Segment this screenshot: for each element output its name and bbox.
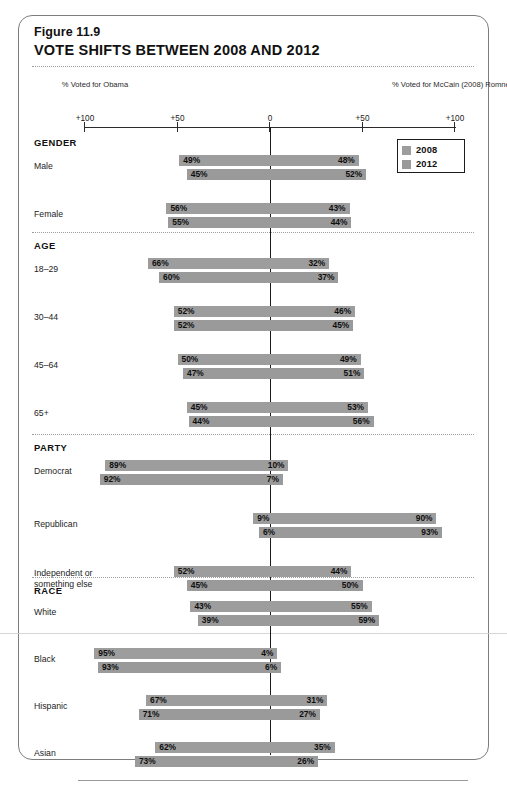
bar-value-left: 6% [263,527,275,538]
bar-value-left: 66% [152,258,169,269]
bar-2008 [155,742,334,753]
row-label: Republican [34,519,77,530]
row-label: Female [34,209,63,220]
row-label: Asian [34,748,56,759]
bar-value-right: 10% [268,460,285,471]
legend-swatch-icon [402,160,411,169]
bar-value-left: 55% [172,217,189,228]
bar-2008 [179,155,358,166]
bar-value-left: 73% [139,756,156,767]
bar-2012 [187,580,363,591]
bar-value-left: 95% [98,648,115,659]
row-label: 65+ [34,408,49,419]
bar-2008 [178,354,361,365]
row-label: Male [34,161,53,172]
legend-item: 2012 [402,157,460,171]
bar-value-left: 9% [257,513,269,524]
bar-value-left: 71% [143,709,160,720]
bar-value-right: 6% [265,662,277,673]
bar-2012 [135,756,318,767]
bar-value-right: 37% [318,272,335,283]
bar-2012 [189,416,374,427]
bar-value-left: 43% [194,601,211,612]
bar-value-left: 62% [159,742,176,753]
bar-2008 [174,306,355,317]
bar-2012 [100,474,283,485]
section-divider [32,434,474,435]
bar-value-left: 49% [183,155,200,166]
bar-2008 [105,460,288,471]
legend-item: 2008 [402,143,460,157]
row-label: Black [34,654,55,665]
row-label: White [34,607,56,618]
section-divider [32,577,474,578]
bar-value-left: 93% [102,662,119,673]
bar-value-right: 48% [338,155,355,166]
row-label: Hispanic [34,701,67,712]
bar-value-right: 49% [340,354,357,365]
bar-value-right: 90% [416,513,433,524]
bar-value-right: 44% [331,566,348,577]
bar-2008 [146,695,327,706]
bar-value-left: 45% [191,402,208,413]
bar-value-right: 56% [353,416,370,427]
bar-2012 [187,169,366,180]
bar-value-right: 50% [342,580,359,591]
bar-2012 [139,709,320,720]
legend: 2008 2012 [397,139,465,173]
section-header: RACE [34,585,62,596]
row-label: Democrat [34,466,72,477]
bar-value-right: 27% [299,709,316,720]
legend-swatch-icon [402,146,411,155]
bar-value-left: 52% [178,306,195,317]
chart-plot-area: GENDER49%48%45%52%Male56%43%55%44%Female… [0,0,507,802]
row-label: 45–64 [34,360,58,371]
bar-value-left: 52% [178,320,195,331]
bar-2012 [159,272,338,283]
bar-value-left: 39% [202,615,219,626]
bar-2012 [174,320,353,331]
bar-value-right: 43% [329,203,346,214]
bar-2008 [190,601,371,612]
bar-value-right: 51% [344,368,361,379]
section-header: GENDER [34,137,77,148]
bar-2012 [168,217,351,228]
bar-value-left: 89% [109,460,126,471]
row-label: 30–44 [34,312,58,323]
bar-value-left: 60% [163,272,180,283]
bar-value-left: 52% [178,566,195,577]
bar-2008 [253,513,436,524]
bar-2008 [94,648,277,659]
section-header: PARTY [34,442,67,453]
bar-value-left: 56% [170,203,187,214]
bar-2008 [148,258,329,269]
bar-2008 [187,402,368,413]
bar-value-left: 50% [182,354,199,365]
bar-value-right: 46% [334,306,351,317]
bar-value-right: 93% [421,527,438,538]
bar-value-right: 59% [358,615,375,626]
bar-value-right: 52% [345,169,362,180]
section-header: AGE [34,240,56,251]
bar-2012 [259,527,442,538]
section-divider [32,232,474,233]
bar-value-right: 26% [297,756,314,767]
bar-2012 [183,368,364,379]
bar-2008 [166,203,349,214]
bar-2012 [198,615,379,626]
bar-value-right: 35% [314,742,331,753]
legend-label: 2008 [416,145,437,155]
bar-value-right: 53% [347,402,364,413]
bar-value-left: 67% [150,695,167,706]
bar-value-right: 45% [332,320,349,331]
row-label: 18–29 [34,264,58,275]
bar-value-left: 45% [191,580,208,591]
bar-value-right: 32% [308,258,325,269]
bar-2012 [98,662,281,673]
bar-2008 [174,566,352,577]
bar-value-left: 44% [193,416,210,427]
bar-value-right: 31% [307,695,324,706]
bar-value-right: 44% [331,217,348,228]
bar-value-left: 47% [187,368,204,379]
legend-label: 2012 [416,159,437,169]
